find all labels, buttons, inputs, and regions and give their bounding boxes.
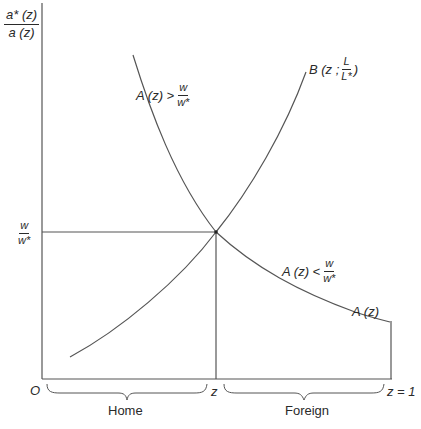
- curve-B: [70, 72, 306, 357]
- curve-B-label-den: L*: [341, 70, 351, 83]
- curve-B-label-prefix: B (z ;: [309, 63, 339, 76]
- annotation-below-text: A (z) <: [282, 265, 320, 278]
- z-bar-label: z: [211, 385, 218, 398]
- curve-B-label-num: L: [342, 56, 350, 70]
- y-axis-label-numerator: a* (z): [4, 8, 39, 25]
- wage-ratio-denominator: w*: [18, 234, 30, 247]
- wage-ratio-numerator: w: [19, 220, 29, 234]
- curve-B-label: B (z ; L L* ): [309, 56, 358, 82]
- y-axis-label: a* (z) a (z): [4, 8, 39, 39]
- annotation-above-text: A (z) >: [136, 89, 174, 102]
- origin-label: O: [30, 384, 40, 397]
- annotation-above: A (z) > w w*: [136, 82, 189, 108]
- z-end-label: z = 1: [387, 385, 416, 398]
- annotation-below-num: w: [324, 258, 334, 272]
- foreign-label: Foreign: [285, 404, 329, 417]
- annotation-above-num: w: [178, 82, 188, 96]
- home-label: Home: [108, 404, 143, 417]
- curve-A-label: A (z): [352, 305, 379, 318]
- home-brace: [47, 384, 207, 400]
- equilibrium-point: [214, 230, 218, 234]
- y-axis-label-denominator: a (z): [9, 25, 35, 40]
- annotation-below-den: w*: [323, 272, 335, 285]
- annotation-below: A (z) < w w*: [282, 258, 335, 284]
- curve-B-label-suffix: ): [354, 63, 358, 76]
- annotation-above-den: w*: [177, 96, 189, 109]
- foreign-brace: [224, 384, 384, 400]
- wage-ratio-label: w w*: [18, 220, 30, 246]
